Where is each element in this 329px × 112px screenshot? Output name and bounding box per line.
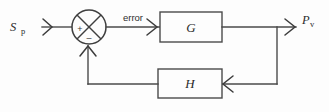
label-block-h: H (184, 76, 195, 91)
control-loop-diagram: S p error G H P v + – (0, 0, 329, 112)
label-error: error (123, 12, 143, 23)
label-setpoint-subscript: p (21, 26, 25, 36)
label-output-base: P (301, 13, 310, 27)
diagram-canvas: S p error G H P v + – (0, 0, 329, 112)
label-output-subscript: v (310, 19, 315, 29)
label-setpoint-base: S (10, 20, 17, 34)
label-sum-plus: + (77, 24, 82, 34)
label-sum-minus: – (86, 33, 91, 43)
label-block-g: G (186, 20, 196, 35)
